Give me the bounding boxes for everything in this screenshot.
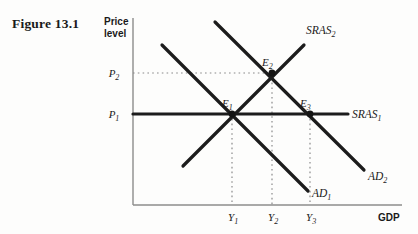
equilibrium-label-e1-sub: 1 <box>229 103 233 112</box>
y-axis-label-line2: level <box>104 28 126 39</box>
curve-label-sras2: SRAS2 <box>306 24 336 39</box>
equilibrium-label-e2-sub: 2 <box>269 62 273 71</box>
x-tick-label-y3-sub: 3 <box>311 217 316 226</box>
curve-label-sras1-sub: 1 <box>378 114 382 123</box>
curve-ad2 <box>215 22 364 170</box>
curve-label-sras2-base: SRAS <box>306 24 332 36</box>
curve-label-sras2-sub: 2 <box>332 30 336 39</box>
curve-label-sras1: SRAS1 <box>352 108 382 123</box>
x-tick-label-y2: Y2 <box>268 211 278 226</box>
curve-label-ad1-base: AD <box>311 187 328 199</box>
x-axis-label: GDP <box>378 212 400 223</box>
curve-ad1 <box>162 45 308 191</box>
y-tick-label-p2: P2 <box>108 67 120 82</box>
curve-label-ad2: AD2 <box>367 170 387 185</box>
curve-label-ad1: AD1 <box>311 187 331 202</box>
curve-label-sras1-base: SRAS <box>352 108 378 120</box>
x-tick-label-y1-sub: 1 <box>234 217 238 226</box>
ad-sras-diagram: Price level GDP E1 E2 E3 AD1 AD2 <box>0 0 418 234</box>
curve-label-ad2-base: AD <box>367 170 384 182</box>
figure-container: Figure 13.1 Price level GDP E1 E2 E3 <box>0 0 418 234</box>
y-axis-label-line1: Price <box>104 16 129 27</box>
x-tick-label-y1: Y1 <box>228 211 238 226</box>
curve-sras2 <box>183 45 304 166</box>
x-tick-label-y2-sub: 2 <box>274 217 278 226</box>
curve-label-ad2-sub: 2 <box>383 176 387 185</box>
y-tick-label-p2-sub: 2 <box>115 73 119 82</box>
y-tick-label-p1-sub: 1 <box>115 114 119 123</box>
x-tick-label-y3: Y3 <box>306 211 316 226</box>
curve-label-ad1-sub: 1 <box>327 193 331 202</box>
y-tick-label-p1: P1 <box>108 108 120 123</box>
equilibrium-label-e3-sub: 3 <box>306 103 311 112</box>
